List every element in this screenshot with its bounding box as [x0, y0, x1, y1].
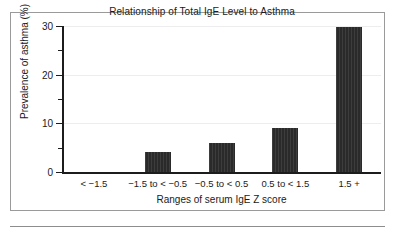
plot-inner: 0102030: [62, 26, 381, 172]
y-axis-line: [62, 26, 64, 172]
bar: [145, 152, 171, 172]
bar: [209, 143, 235, 172]
y-axis-tick-label: 0: [47, 167, 53, 178]
x-axis-tick-label: < −1.5: [80, 178, 107, 189]
bar: [336, 27, 362, 172]
x-axis-tick-label: 0.5 to < 1.5: [261, 178, 309, 189]
bar: [272, 128, 298, 172]
y-axis-title: Prevalence of asthma (%): [19, 0, 30, 132]
x-axis-tick-label: −0.5 to < 0.5: [195, 178, 248, 189]
y-axis-tick-label: 10: [42, 118, 53, 129]
figure-rule: [10, 226, 385, 227]
gridline: [62, 26, 381, 27]
chart-title: Relationship of Total IgE Level to Asthm…: [0, 6, 404, 17]
figure-container: Relationship of Total IgE Level to Asthm…: [0, 0, 404, 236]
y-axis-tick-label: 20: [42, 69, 53, 80]
x-axis-tick-label: 1.5 +: [338, 178, 359, 189]
x-axis-tick-label: −1.5 to < −0.5: [128, 178, 187, 189]
gridline: [62, 123, 381, 124]
y-axis-tick-label: 30: [42, 21, 53, 32]
x-axis-title: Ranges of serum IgE Z score: [62, 194, 381, 205]
x-axis-line: [62, 172, 381, 174]
plot-area: 0102030: [62, 26, 381, 172]
gridline: [62, 75, 381, 76]
